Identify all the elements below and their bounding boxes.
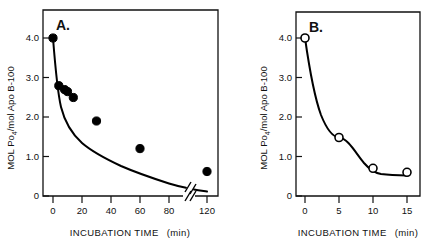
y-tick-label: 1.0 [279, 151, 292, 162]
data-point [203, 167, 211, 175]
x-tick-label: 20 [77, 205, 88, 216]
data-point [369, 164, 377, 172]
data-point [136, 145, 144, 153]
x-axis-ticks-b [305, 196, 407, 203]
y-axis-title-prefix: MOL Po [5, 135, 16, 170]
chart-panel-b: 0 1.0 2.0 3.0 4.0 0 5 10 15 B. [224, 0, 448, 245]
y-tick-label: 3.0 [279, 72, 292, 83]
y-tick-label: 3.0 [26, 72, 39, 83]
panel-b-svg: 0 1.0 2.0 3.0 4.0 0 5 10 15 B. [224, 0, 448, 245]
x-tick-label: 40 [106, 205, 117, 216]
data-point [49, 34, 57, 42]
data-point [301, 34, 309, 42]
y-axis-title-b: MOL Po4/mol Apo B-100 [258, 66, 271, 169]
chart-panel-a: 0 1.0 2.0 3.0 4.0 [0, 0, 224, 245]
x-tick-label: 15 [402, 205, 413, 216]
y-axis-title-a: MOL Po4/mol Apo B-100 [5, 66, 18, 169]
data-point [403, 168, 411, 176]
x-tick-label: 80 [164, 205, 175, 216]
panel-letter-b: B. [309, 19, 323, 35]
x-axis-title-units: (min) [395, 227, 419, 238]
plot-frame-b [296, 12, 420, 196]
x-axis-labels-a: 0 20 40 60 80 120 [50, 205, 215, 216]
x-tick-label: 60 [135, 205, 146, 216]
y-axis-title-prefix: MOL Po [258, 135, 269, 170]
x-axis-title-main: INCUBATION TIME [70, 227, 159, 238]
data-points-a [49, 34, 211, 176]
data-point [69, 93, 77, 101]
data-point [92, 117, 100, 125]
y-tick-label: 2.0 [279, 111, 292, 122]
y-axis-labels-a: 0 1.0 2.0 3.0 4.0 [26, 32, 39, 201]
y-tick-label: 0 [287, 190, 292, 201]
y-axis-ticks-a [43, 38, 49, 196]
y-tick-label: 4.0 [26, 32, 39, 43]
panel-letter-a: A. [56, 17, 70, 33]
x-axis-title-b: INCUBATION TIME (min) [298, 227, 419, 238]
figure-container: 0 1.0 2.0 3.0 4.0 [0, 0, 448, 245]
x-tick-label: 0 [50, 205, 55, 216]
x-tick-label: 10 [368, 205, 379, 216]
x-axis-labels-b: 0 5 10 15 [302, 205, 412, 216]
decay-curve-b-smooth [305, 38, 407, 176]
panel-a-svg: 0 1.0 2.0 3.0 4.0 [0, 0, 224, 245]
y-axis-title-suffix: /mol Apo B-100 [5, 66, 16, 131]
x-tick-label: 5 [336, 205, 341, 216]
decay-curve-a [53, 38, 186, 188]
y-axis-labels-b: 0 1.0 2.0 3.0 4.0 [279, 32, 292, 201]
y-tick-label: 0 [34, 190, 39, 201]
x-axis-break-a [183, 191, 196, 201]
y-tick-label: 2.0 [26, 111, 39, 122]
y-axis-title-suffix: /mol Apo B-100 [258, 66, 269, 131]
x-tick-label: 0 [302, 205, 307, 216]
y-tick-label: 4.0 [279, 32, 292, 43]
x-axis-title-a: INCUBATION TIME (min) [70, 227, 191, 238]
y-tick-label: 1.0 [26, 151, 39, 162]
x-axis-title-main: INCUBATION TIME [298, 227, 387, 238]
x-axis-title-units: (min) [167, 227, 191, 238]
data-point [335, 134, 343, 142]
curve-break-a [185, 182, 196, 194]
y-axis-ticks-b [296, 38, 302, 196]
x-tick-label: 120 [199, 205, 215, 216]
plot-frame-a [43, 10, 218, 196]
